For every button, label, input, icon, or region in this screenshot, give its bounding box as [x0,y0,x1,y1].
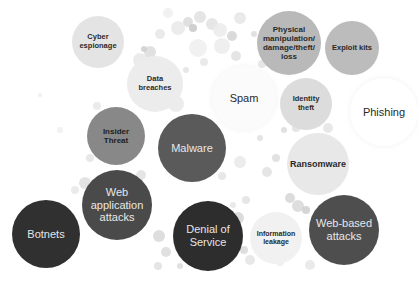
decorative-dot [213,23,227,37]
decorative-dot [257,135,263,141]
bubble-label: Spam [226,92,263,105]
decorative-dot [305,260,315,270]
bubble-label: Physical manipulation/ damage/theft/ los… [257,25,321,62]
decorative-dot [194,11,206,23]
decorative-dot [57,127,63,133]
decorative-dot [231,51,241,61]
decorative-dot [189,39,207,57]
bubble-malware: Malware [158,114,226,182]
bubble-label: Identity theft [280,95,332,112]
decorative-dot [218,172,226,180]
decorative-dot [163,8,173,18]
bubble-denial-of-service: Denial of Service [173,201,243,271]
bubble-label: Web-based attacks [309,217,379,242]
bubble-data-breaches: Data breaches [127,56,183,112]
bubble-label: Ransomware [286,159,350,169]
bubble-label: Insider Threat [87,127,145,145]
decorative-dot [153,230,165,242]
bubble-label: Malware [167,142,217,155]
bubble-label: Cyber espionage [72,33,124,50]
decorative-dot [177,263,183,269]
bubble-cyber-espionage: Cyber espionage [72,16,124,68]
decorative-dot [281,127,287,133]
decorative-dot [38,93,42,97]
bubble-label: Exploit kits [328,44,376,53]
bubble-physical-manipulation: Physical manipulation/ damage/theft/ los… [257,11,321,75]
decorative-dot [71,186,79,194]
decorative-dot [155,29,165,39]
decorative-dot [302,206,310,214]
bubble-label: Denial of Service [173,223,243,248]
decorative-dot [234,156,246,168]
decorative-dot [323,123,333,133]
bubble-botnets: Botnets [12,200,80,268]
decorative-dot [227,31,237,41]
decorative-dot [262,167,272,177]
bubble-ransomware: Ransomware [287,133,349,195]
decorative-dot [86,154,94,162]
bubble-label: Phishing [359,106,409,119]
bubble-exploit-kits: Exploit kits [325,21,379,75]
bubble-label: Web application attacks [82,186,152,224]
bubble-information-leakage: Information leakage [250,212,302,264]
decorative-dot [272,154,280,162]
decorative-dot [183,67,189,73]
bubble-identity-theft: Identity theft [280,78,332,130]
decorative-dot [245,255,255,265]
decorative-dot [200,58,208,66]
bubble-label: Botnets [23,228,68,241]
decorative-dot [93,102,101,110]
decorative-dot [141,46,147,52]
decorative-dot [214,38,230,54]
decorative-dot [234,12,246,24]
decorative-dot [161,247,171,257]
decorative-dot [189,24,197,32]
bubble-web-based-attacks: Web-based attacks [309,195,379,265]
decorative-dot [230,202,236,208]
bubble-label: Information leakage [250,230,302,246]
decorative-dot [154,262,162,270]
bubble-phishing: Phishing [350,78,418,146]
bubble-web-application-attacks: Web application attacks [82,170,152,240]
bubble-insider-threat: Insider Threat [87,107,145,165]
bubble-spam: Spam [212,66,276,130]
decorative-dot [242,196,250,204]
bubble-label: Data breaches [127,75,183,92]
